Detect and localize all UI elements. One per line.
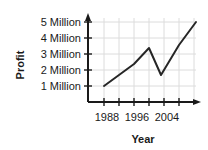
x-axis-title: Year — [131, 133, 155, 145]
x-tick-labels: 1988 1996 2004 — [95, 111, 179, 123]
y-tick-label-5: 5 Million — [41, 16, 81, 28]
x-tick-label-2004: 2004 — [155, 111, 179, 123]
y-tick-label-3: 3 Million — [41, 48, 81, 60]
y-tick-label-4: 4 Million — [41, 32, 81, 44]
x-tick-label-1988: 1988 — [95, 111, 119, 123]
x-tick-label-1996: 1996 — [125, 111, 149, 123]
profit-line-chart: 1 Million 2 Million 3 Million 4 Million … — [0, 0, 208, 150]
y-tick-label-1: 1 Million — [41, 80, 81, 92]
y-tick-labels: 1 Million 2 Million 3 Million 4 Million … — [41, 16, 81, 92]
y-tick-label-2: 2 Million — [41, 64, 81, 76]
chart-canvas: 1 Million 2 Million 3 Million 4 Million … — [0, 0, 208, 150]
y-axis-title: Profit — [14, 50, 26, 79]
